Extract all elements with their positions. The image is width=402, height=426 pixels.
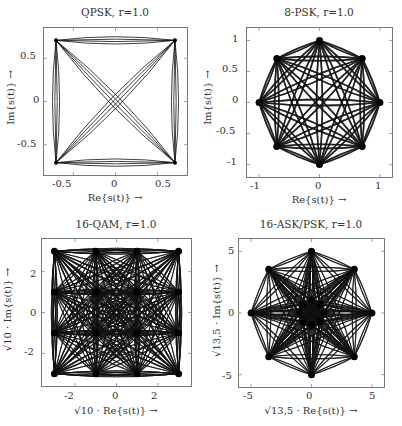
chart-title: 16-ASK/PSK, r=1.0 [238,218,384,230]
x-tick: 0.5 [155,178,171,189]
x-tick: 0 [112,390,118,401]
y-tick: 0 [228,307,234,318]
trajectory-plot [239,239,384,387]
x-tick: 0 [306,390,312,401]
plot-area [246,27,393,178]
x-tick: 2 [151,390,157,401]
y-tick: -0.5 [17,138,36,149]
y-tick: 0 [33,94,39,105]
y-tick: 1 [232,33,238,44]
y-tick: -1 [227,156,237,167]
plot-area [41,238,192,387]
x-tick: -0.5 [52,178,71,189]
x-axis-label: Re{s(t)} → [246,194,392,205]
chart-title: 16-QAM, r=1.0 [41,218,191,230]
x-axis-label: √13,5 · Re{s(t)} → [238,405,384,416]
y-tick: 2 [30,268,36,279]
trajectory-plot [247,28,392,177]
x-tick: -1 [250,180,260,191]
trajectory-plot [44,28,187,175]
y-tick: 0.5 [222,63,238,74]
y-axis-label: Im{s(t)} → [202,48,213,148]
chart-title: QPSK, r=1.0 [43,6,187,18]
y-tick: -5 [222,370,232,381]
x-tick: -5 [243,390,253,401]
x-tick: 0 [111,178,117,189]
y-tick: 5 [228,245,234,256]
x-tick: 5 [369,390,375,401]
plot-area [238,238,385,388]
y-axis-label: √13,5 · Im{s(t)} → [211,251,222,371]
plot-area [43,27,188,176]
y-tick: 0.5 [20,50,36,61]
y-tick: 0 [232,94,238,105]
x-axis-label: Re{s(t)} → [43,192,187,203]
x-tick: 1 [375,180,381,191]
y-axis-label: √10 · Im{s(t)} → [2,255,13,365]
x-axis-label: √10 · Re{s(t)} → [41,405,191,416]
x-tick: -2 [64,390,74,401]
y-tick: -0.5 [216,125,235,136]
trajectory-plot [42,239,191,386]
x-tick: 0 [315,180,321,191]
y-tick: 0 [30,307,36,318]
chart-title: 8-PSK, r=1.0 [246,6,392,18]
y-axis-label: Im{s(t)} → [5,48,16,148]
y-tick: -2 [24,346,34,357]
